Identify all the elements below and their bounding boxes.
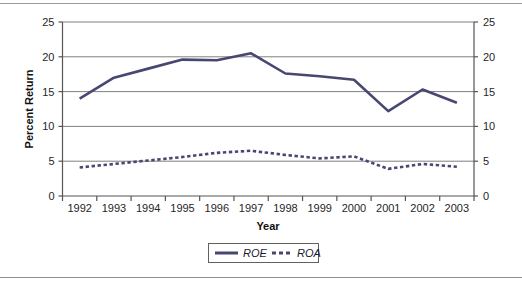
- x-axis-tick-labels: 1992199319941995199619971998199920002001…: [67, 202, 469, 214]
- y-axis-left-tick-labels: 0510152025: [42, 16, 54, 202]
- x-tick-label-1997: 1997: [239, 202, 263, 214]
- y-tick-label-right-5: 5: [483, 155, 489, 167]
- y-tick-label-right-0: 0: [483, 190, 489, 202]
- line-chart: 0510152025 0510152025 199219931994199519…: [0, 0, 522, 284]
- x-axis-ticks: [63, 196, 475, 201]
- x-tick-label-1994: 1994: [136, 202, 160, 214]
- y-tick-label-right-20: 20: [483, 51, 495, 63]
- x-tick-label-1998: 1998: [273, 202, 297, 214]
- y-tick-label-right-15: 15: [483, 86, 495, 98]
- y-tick-label-left-5: 5: [48, 155, 54, 167]
- data-series-group: [80, 53, 457, 169]
- x-tick-label-1993: 1993: [102, 202, 126, 214]
- y-axis-title: Percent Return: [23, 69, 35, 148]
- legend-label-roe: ROE: [243, 247, 268, 259]
- x-tick-label-1996: 1996: [205, 202, 229, 214]
- y-tick-label-left-20: 20: [42, 51, 54, 63]
- y-axis-right-tick-labels: 0510152025: [483, 16, 495, 202]
- chart-legend[interactable]: ROE ROA: [209, 244, 321, 263]
- y-tick-label-right-25: 25: [483, 16, 495, 28]
- series-line-roa: [80, 151, 457, 169]
- x-tick-label-2002: 2002: [410, 202, 434, 214]
- y-tick-label-left-25: 25: [42, 16, 54, 28]
- x-tick-label-1992: 1992: [67, 202, 91, 214]
- legend-label-roa: ROA: [297, 247, 321, 259]
- x-tick-label-1995: 1995: [170, 202, 194, 214]
- y-tick-label-left-15: 15: [42, 86, 54, 98]
- chart-page: 0510152025 0510152025 199219931994199519…: [0, 0, 522, 284]
- x-tick-label-2000: 2000: [342, 202, 366, 214]
- gridlines-group: [63, 22, 475, 161]
- y-tick-label-left-0: 0: [48, 190, 54, 202]
- x-tick-label-1999: 1999: [307, 202, 331, 214]
- y-tick-label-left-10: 10: [42, 120, 54, 132]
- series-line-roe: [80, 53, 457, 111]
- x-axis-title: Year: [256, 220, 280, 232]
- y-tick-label-right-10: 10: [483, 120, 495, 132]
- x-tick-label-2003: 2003: [445, 202, 469, 214]
- x-tick-label-2001: 2001: [376, 202, 400, 214]
